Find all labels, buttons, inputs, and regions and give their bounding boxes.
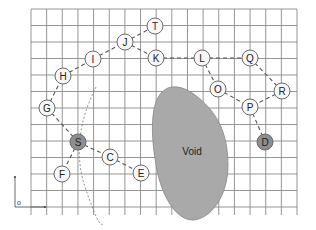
node-j: J: [117, 34, 133, 50]
node-l: L: [194, 50, 210, 66]
x-axis-tip: [44, 206, 46, 208]
node-label: E: [138, 168, 145, 179]
node-label: D: [261, 137, 268, 148]
node-r: R: [274, 83, 290, 99]
node-label: C: [106, 152, 113, 163]
node-label: T: [152, 21, 158, 32]
node-label: G: [43, 103, 51, 114]
origin-axes: o: [14, 176, 46, 208]
node-label: H: [59, 71, 66, 82]
node-f: F: [54, 166, 70, 182]
y-axis-tip: [14, 176, 16, 178]
node-c: C: [102, 149, 118, 165]
void-region: Void: [152, 87, 228, 220]
node-h: H: [55, 68, 71, 84]
node-d: D: [257, 134, 273, 150]
node-o: O: [210, 81, 226, 97]
node-i: I: [85, 51, 101, 67]
node-label: F: [59, 169, 65, 180]
node-p: P: [242, 99, 258, 115]
node-t: T: [147, 18, 163, 34]
node-label: K: [153, 53, 160, 64]
node-label: O: [214, 84, 222, 95]
node-s: S: [70, 134, 86, 150]
node-label: I: [92, 54, 95, 65]
path-planning-diagram: Void TJKLQIHGSFCEORPD o: [0, 0, 316, 230]
node-q: Q: [242, 50, 258, 66]
node-label: L: [199, 53, 205, 64]
void-label: Void: [182, 146, 201, 157]
node-label: Q: [246, 53, 254, 64]
node-e: E: [133, 165, 149, 181]
node-label: S: [75, 137, 82, 148]
node-label: R: [278, 86, 285, 97]
node-label: J: [123, 37, 128, 48]
node-label: P: [247, 102, 254, 113]
node-k: K: [148, 50, 164, 66]
node-g: G: [39, 100, 55, 116]
origin-label: o: [17, 199, 21, 206]
